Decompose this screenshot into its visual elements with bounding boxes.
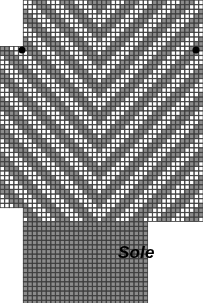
left-marker-dot bbox=[19, 47, 26, 54]
knitting-chart-grid[interactable] bbox=[0, 0, 203, 303]
right-marker-dot bbox=[193, 47, 200, 54]
sole-chart-panel: Sole bbox=[0, 0, 203, 303]
sole-label: Sole bbox=[118, 243, 155, 263]
